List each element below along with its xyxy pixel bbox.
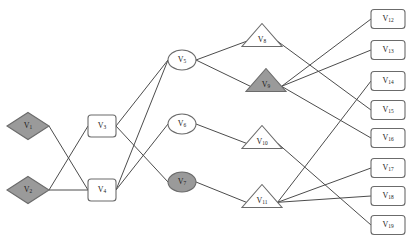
- edge-v9-to-v12: [282, 19, 371, 86]
- node-v14[interactable]: V14: [371, 72, 405, 91]
- node-v1[interactable]: V1: [7, 113, 49, 140]
- node-v16[interactable]: V16: [371, 129, 405, 148]
- node-v10[interactable]: V10: [242, 126, 282, 149]
- diagram-canvas: V1V2V3V4V5V6V7V8V9V10V11V12V13V14V15V16V…: [0, 0, 414, 241]
- node-v11[interactable]: V11: [242, 185, 282, 208]
- node-v6[interactable]: V6: [168, 114, 196, 134]
- edge-v4-to-v5: [116, 60, 168, 190]
- node-v3[interactable]: V3: [88, 115, 116, 137]
- edge-v9-to-v16: [282, 86, 371, 138]
- node-v15[interactable]: V15: [371, 101, 405, 120]
- node-v12[interactable]: V12: [371, 10, 405, 29]
- node-v13[interactable]: V13: [371, 41, 405, 60]
- node-v5[interactable]: V5: [168, 50, 196, 70]
- edge-v3-to-v5: [116, 60, 168, 126]
- node-v8[interactable]: V8: [242, 24, 282, 47]
- edge-v6-to-v10: [196, 124, 246, 143]
- node-v9[interactable]: V9: [246, 69, 286, 92]
- node-v4[interactable]: V4: [88, 179, 116, 201]
- edge-v7-to-v11: [196, 182, 246, 202]
- node-v18[interactable]: V18: [371, 187, 405, 206]
- graph-svg: V1V2V3V4V5V6V7V8V9V10V11V12V13V14V15V16V…: [0, 0, 414, 241]
- node-v2[interactable]: V2: [7, 177, 49, 204]
- edge-v5-to-v8: [196, 41, 246, 60]
- edge-v9-to-v13: [282, 50, 371, 86]
- node-v19[interactable]: V19: [371, 216, 405, 235]
- node-v7[interactable]: V7: [168, 172, 196, 192]
- node-layer: V1V2V3V4V5V6V7V8V9V10V11V12V13V14V15V16V…: [7, 10, 405, 235]
- node-v17[interactable]: V17: [371, 159, 405, 178]
- edge-v5-to-v9: [196, 60, 250, 86]
